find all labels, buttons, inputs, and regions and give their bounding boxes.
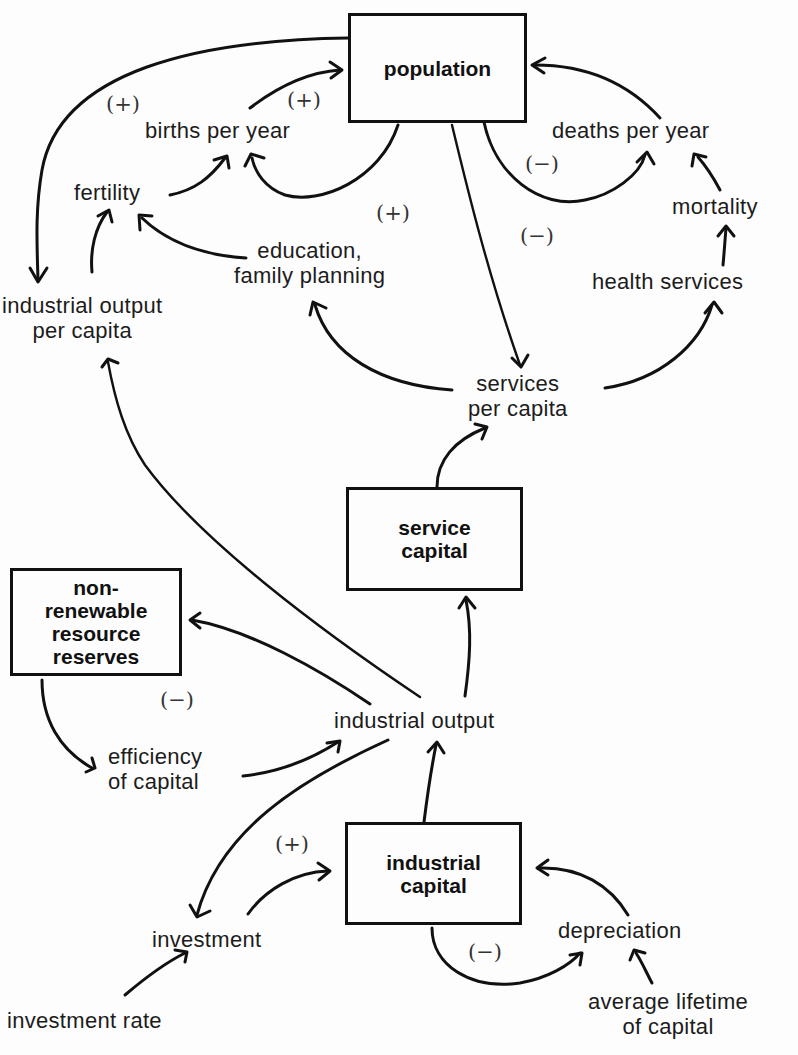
polarity-resources: (−) xyxy=(160,688,194,712)
var-industrial-output: industrial output xyxy=(334,708,494,733)
stock-nonrenewable-label: non- renewable resource reserves xyxy=(45,576,148,668)
polarity-deaths: (−) xyxy=(525,152,559,176)
var-births-per-year: births per year xyxy=(145,118,290,143)
stock-service-capital-label: service capital xyxy=(398,516,470,562)
var-health-services: health services xyxy=(592,269,743,294)
arrow-io-to-servicecap xyxy=(465,600,470,696)
var-fertility: fertility xyxy=(74,180,140,205)
polarity-investment: (+) xyxy=(275,832,309,856)
var-investment-rate: investment rate xyxy=(7,1008,162,1033)
arrow-invrate-to-investment xyxy=(125,953,185,995)
stock-industrial-capital-label: industrial capital xyxy=(386,851,481,897)
polarity-depreciation: (−) xyxy=(468,940,502,964)
stock-service-capital: service capital xyxy=(346,487,523,591)
arrow-health-to-mortality xyxy=(723,228,726,265)
arrow-mortality-to-deaths xyxy=(698,157,720,190)
stock-nonrenewable-resources: non- renewable resource reserves xyxy=(10,568,182,676)
var-investment: investment xyxy=(152,927,261,952)
polarity-education: (+) xyxy=(376,201,410,225)
arrow-services-to-health xyxy=(605,305,712,388)
var-efficiency-of-capital: efficiency of capital xyxy=(108,744,202,794)
var-education-family-planning: education, family planning xyxy=(234,238,385,288)
stock-industrial-capital: industrial capital xyxy=(345,822,522,925)
arrow-services-to-education xyxy=(315,305,452,390)
arrow-population-to-services xyxy=(452,125,520,365)
stock-population: population xyxy=(348,13,527,123)
arrow-indcap-to-io xyxy=(424,745,436,822)
causal-loop-diagram: population service capital non- renewabl… xyxy=(0,0,798,1055)
arrow-servicecap-to-services xyxy=(437,428,485,487)
arrow-deaths-to-population xyxy=(535,65,660,118)
var-deaths-per-year: deaths per year xyxy=(552,118,709,143)
var-average-lifetime-of-capital: average lifetime of capital xyxy=(588,989,748,1039)
var-mortality: mortality xyxy=(672,194,758,219)
var-services-per-capita: services per capita xyxy=(468,371,568,421)
arrow-lifetime-to-depreciation xyxy=(636,953,652,983)
stock-population-label: population xyxy=(384,57,491,80)
arrow-resources-to-efficiency xyxy=(42,680,92,768)
polarity-births: (+) xyxy=(287,88,321,112)
var-depreciation: depreciation xyxy=(558,918,681,943)
arrow-efficiency-to-io xyxy=(243,742,338,776)
var-industrial-output-per-capita: industrial output per capita xyxy=(2,293,162,343)
arrow-education-to-fertility xyxy=(142,218,246,258)
arrow-depreciation-to-indcap xyxy=(540,868,628,915)
arrow-io-to-resources xyxy=(192,620,370,704)
arrow-investment-to-indcap xyxy=(248,871,328,914)
arrow-fertility-to-births xyxy=(170,158,225,195)
arrow-iopc-to-fertility xyxy=(92,212,107,272)
polarity-services: (−) xyxy=(520,224,554,248)
polarity-births-outer: (+) xyxy=(106,92,140,116)
